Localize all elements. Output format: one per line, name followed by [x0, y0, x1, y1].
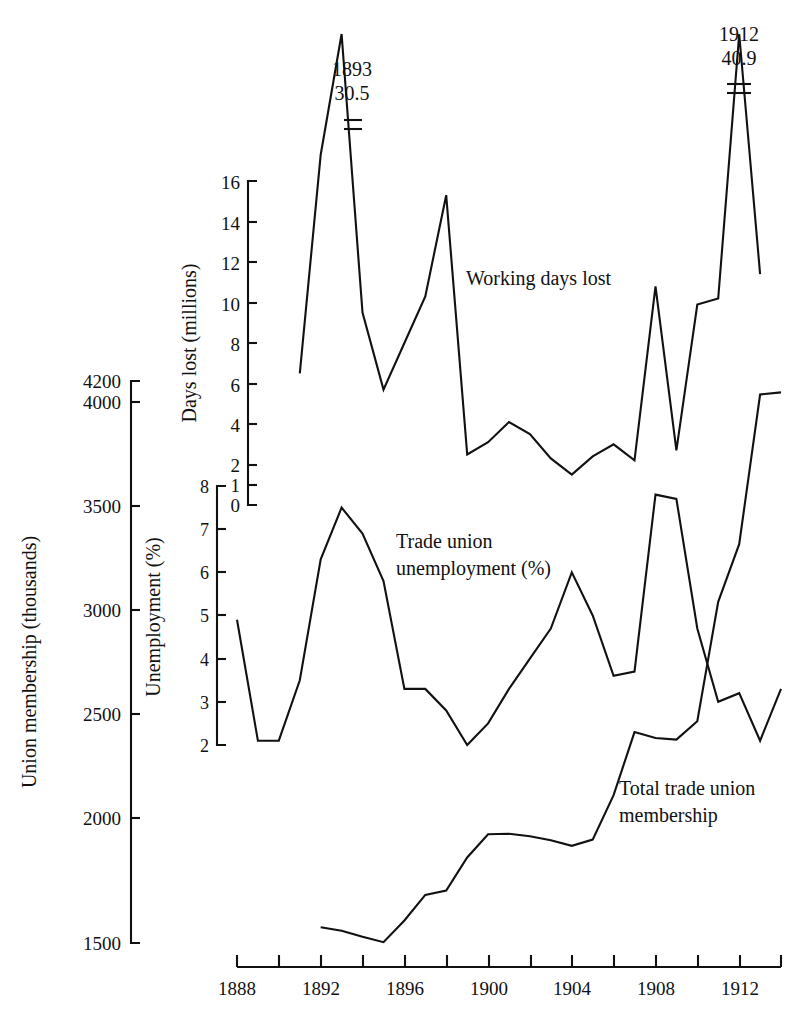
dayslost-ticklabel-2: 2 [231, 455, 241, 476]
x-ticklabel-1888: 1888 [218, 978, 256, 999]
unemployment-ticklabel-2: 2 [200, 736, 209, 756]
dayslost-ticklabel-4: 4 [231, 415, 241, 436]
label-unemployment-line2: unemployment (%) [396, 557, 551, 580]
chart-figure: 4200 4000 3500 3000 2500 2000 1500 Union… [0, 0, 803, 1020]
annotation-1912-year: 1912 [719, 23, 759, 45]
dayslost-ticklabel-14: 14 [221, 213, 241, 234]
dayslost-ticklabel-8: 8 [231, 334, 241, 355]
unemployment-ticklabel-3: 3 [200, 693, 209, 713]
label-membership-line2: membership [619, 804, 718, 827]
unemployment-ticklabel-5: 5 [200, 606, 209, 626]
x-ticklabel-1908: 1908 [637, 978, 675, 999]
annotation-1893-value: 30.5 [335, 82, 370, 104]
x-ticklabel-1892: 1892 [302, 978, 340, 999]
membership-axis-title: Union membership (thousands) [18, 536, 41, 788]
dayslost-ticklabel-12: 12 [221, 253, 240, 274]
unemployment-ticklabel-6: 6 [200, 563, 209, 583]
dayslost-axis-title: Days lost (millions) [178, 264, 201, 423]
label-working-days-lost: Working days lost [466, 267, 611, 290]
label-membership-line1: Total trade union [619, 777, 755, 799]
membership-ticklabel-4000: 4000 [83, 392, 121, 413]
chart-svg: 4200 4000 3500 3000 2500 2000 1500 Union… [0, 0, 803, 1020]
unemployment-ticklabel-7: 7 [200, 520, 209, 540]
unemployment-ticklabel-8: 8 [200, 477, 209, 497]
x-ticklabel-1896: 1896 [386, 978, 424, 999]
dayslost-ticklabel-6: 6 [231, 375, 241, 396]
dayslost-ticklabel-0: 0 [231, 495, 241, 516]
dayslost-ticklabel-16: 16 [221, 172, 240, 193]
membership-ticklabel-1500: 1500 [83, 933, 121, 954]
membership-ticklabel-4200: 4200 [83, 371, 121, 392]
label-unemployment-line1: Trade union [396, 530, 492, 552]
annotation-1893-year: 1893 [332, 58, 372, 80]
x-ticklabel-1912: 1912 [721, 978, 759, 999]
dayslost-ticklabel-10: 10 [221, 294, 240, 315]
x-ticklabel-1904: 1904 [553, 978, 592, 999]
dayslost-ticklabel-1: 1 [231, 475, 241, 496]
membership-ticklabel-2500: 2500 [83, 704, 121, 725]
membership-ticklabel-3000: 3000 [83, 600, 121, 621]
membership-ticklabel-3500: 3500 [83, 496, 121, 517]
x-ticklabel-1900: 1900 [470, 978, 508, 999]
unemployment-axis-title: Unemployment (%) [142, 537, 165, 696]
membership-ticklabel-2000: 2000 [83, 808, 121, 829]
unemployment-ticklabel-4: 4 [200, 650, 209, 670]
annotation-1912-value: 40.9 [722, 47, 757, 69]
